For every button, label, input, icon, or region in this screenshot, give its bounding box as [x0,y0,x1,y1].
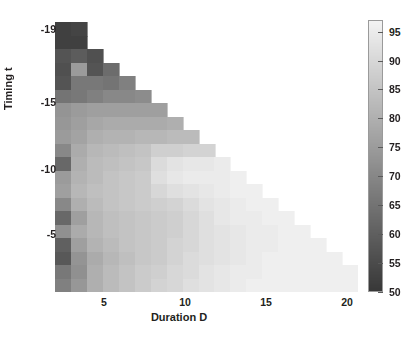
colorbar-tick-label-60: 60 [389,228,401,240]
colorbar: 95908580757065605550 [368,20,418,294]
colorbar-tick-mark [378,89,383,90]
x-axis-title: Duration D [0,311,358,323]
y-tick-label--15: -15 [41,96,56,108]
y-tick-label--5: -5 [47,228,56,240]
colorbar-tick-label-65: 65 [389,199,401,211]
x-tick-label-20: 20 [341,296,353,308]
x-tick-label-10: 10 [179,296,191,308]
colorbar-tick-mark [378,205,383,206]
colorbar-tick-label-90: 90 [389,55,401,67]
x-tick-label-5: 5 [101,296,107,308]
colorbar-tick-mark [378,176,383,177]
colorbar-tick-label-50: 50 [389,286,401,298]
colorbar-tick-mark [378,234,383,235]
colorbar-tick-mark [378,32,383,33]
colorbar-tick-label-80: 80 [389,112,401,124]
colorbar-tick-label-55: 55 [389,257,401,269]
colorbar-tick-mark [378,147,383,148]
heatmap-cells [55,22,358,292]
colorbar-tick-mark [378,292,383,293]
heatmap-figure: 5 10 15 20 -19 -15 -10 -5 Duration D Tim… [0,0,418,338]
colorbar-tick-label-85: 85 [389,83,401,95]
x-tick-label-15: 15 [260,296,272,308]
colorbar-tick-label-70: 70 [389,170,401,182]
colorbar-tick-mark [378,118,383,119]
colorbar-tick-mark [378,61,383,62]
colorbar-tick-label-95: 95 [389,26,401,38]
colorbar-tick-label-75: 75 [389,141,401,153]
plot-area [55,22,358,292]
y-axis-title: Timing t [2,67,14,110]
y-tick-label--10: -10 [41,163,56,175]
colorbar-tick-mark [378,263,383,264]
y-tick-label--19: -19 [41,23,56,35]
